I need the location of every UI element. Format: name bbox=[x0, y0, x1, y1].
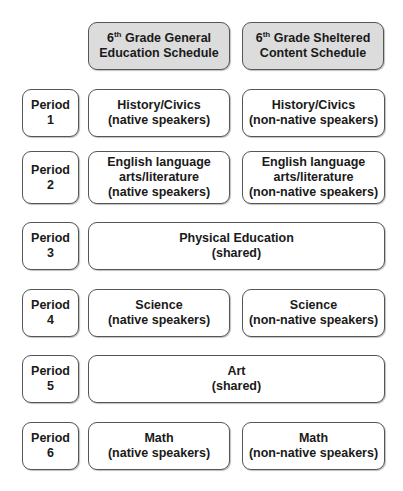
subject: Science bbox=[135, 298, 182, 313]
period-5-shared: Art (shared) bbox=[88, 355, 385, 403]
audience: (native speakers) bbox=[108, 185, 210, 200]
subject: Math bbox=[299, 431, 328, 446]
subject: English language bbox=[262, 155, 366, 170]
period-3-shared: Physical Education (shared) bbox=[88, 222, 385, 270]
subject: History/Civics bbox=[272, 98, 355, 113]
period-1-sheltered: History/Civics (non-native speakers) bbox=[242, 89, 385, 137]
audience: (shared) bbox=[212, 246, 261, 261]
header-general-education: 6th Grade General Education Schedule bbox=[88, 22, 230, 70]
period-6-label: Period 6 bbox=[22, 422, 79, 470]
subject: Art bbox=[227, 364, 245, 379]
subject: Science bbox=[290, 298, 337, 313]
period-number: 5 bbox=[47, 379, 54, 394]
period-number: 2 bbox=[47, 178, 54, 193]
subject-cont: arts/literature bbox=[119, 170, 199, 185]
period-text: Period bbox=[31, 98, 70, 113]
subject: Physical Education bbox=[179, 231, 294, 246]
audience: (native speakers) bbox=[108, 113, 210, 128]
subject-cont: arts/literature bbox=[274, 170, 354, 185]
period-number: 1 bbox=[47, 113, 54, 128]
period-number: 4 bbox=[47, 313, 54, 328]
subject: History/Civics bbox=[117, 98, 200, 113]
header-line1: Grade General bbox=[121, 31, 211, 45]
audience: (non-native speakers) bbox=[249, 446, 378, 461]
period-2-general: English language arts/literature (native… bbox=[88, 151, 230, 204]
period-4-sheltered: Science (non-native speakers) bbox=[242, 289, 385, 337]
period-text: Period bbox=[31, 163, 70, 178]
period-4-label: Period 4 bbox=[22, 289, 79, 337]
audience: (native speakers) bbox=[108, 446, 210, 461]
grade-number: 6 bbox=[256, 31, 263, 45]
period-5-label: Period 5 bbox=[22, 355, 79, 403]
period-1-label: Period 1 bbox=[22, 89, 79, 137]
period-6-general: Math (native speakers) bbox=[88, 422, 230, 470]
audience: (shared) bbox=[212, 379, 261, 394]
header-line2: Content Schedule bbox=[260, 46, 366, 61]
audience: (non-native speakers) bbox=[249, 185, 378, 200]
period-3-label: Period 3 bbox=[22, 222, 79, 270]
header-line2: Education Schedule bbox=[99, 46, 218, 61]
audience: (non-native speakers) bbox=[249, 313, 378, 328]
period-4-general: Science (native speakers) bbox=[88, 289, 230, 337]
header-sheltered-content: 6th Grade Sheltered Content Schedule bbox=[242, 22, 384, 70]
grade-number: 6 bbox=[107, 31, 114, 45]
period-text: Period bbox=[31, 231, 70, 246]
period-text: Period bbox=[31, 298, 70, 313]
audience: (non-native speakers) bbox=[249, 113, 378, 128]
subject: Math bbox=[144, 431, 173, 446]
period-1-general: History/Civics (native speakers) bbox=[88, 89, 230, 137]
subject: English language bbox=[107, 155, 211, 170]
period-text: Period bbox=[31, 364, 70, 379]
period-number: 3 bbox=[47, 246, 54, 261]
period-6-sheltered: Math (non-native speakers) bbox=[242, 422, 385, 470]
audience: (native speakers) bbox=[108, 313, 210, 328]
period-2-label: Period 2 bbox=[22, 151, 79, 204]
header-line1: Grade Sheltered bbox=[270, 31, 370, 45]
period-2-sheltered: English language arts/literature (non-na… bbox=[242, 151, 385, 204]
period-number: 6 bbox=[47, 446, 54, 461]
period-text: Period bbox=[31, 431, 70, 446]
